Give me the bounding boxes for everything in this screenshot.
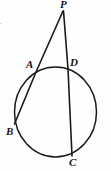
circle-shape xyxy=(15,67,97,157)
cropped-edge-mark: r xyxy=(0,20,2,29)
point-label-p: P xyxy=(60,0,67,10)
geometry-figure: P A D B C r xyxy=(0,0,111,171)
point-label-c: C xyxy=(69,157,76,168)
point-label-a: A xyxy=(26,59,33,70)
figure-canvas xyxy=(0,0,111,171)
point-label-b: B xyxy=(6,126,13,137)
point-label-d: D xyxy=(70,57,78,68)
secant-line-pdc xyxy=(64,11,73,156)
